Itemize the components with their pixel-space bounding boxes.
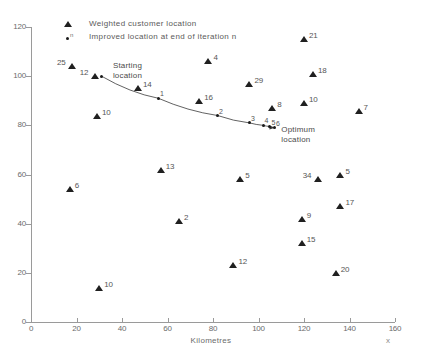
customer-marker xyxy=(157,167,165,173)
customer-marker xyxy=(236,176,244,182)
iteration-number-label: 6 xyxy=(276,120,280,127)
customer-weight-label: 12 xyxy=(238,258,247,266)
y-tick xyxy=(26,224,31,225)
iteration-number-label: 3 xyxy=(251,115,255,122)
customer-weight-label: 16 xyxy=(204,94,213,102)
starting-location: Startinglocation xyxy=(113,61,142,80)
y-tick xyxy=(26,175,31,176)
legend-label-iteration: Improved location at end of iteration n xyxy=(89,33,237,41)
customer-marker xyxy=(91,73,99,79)
customer-weight-label: 18 xyxy=(318,67,327,75)
customer-marker xyxy=(229,262,237,268)
x-tick xyxy=(122,318,123,322)
customer-weight-label: 7 xyxy=(364,104,368,112)
y-tick xyxy=(26,125,31,126)
y-axis-line xyxy=(31,27,32,323)
customer-marker xyxy=(298,216,306,222)
iteration-number-label: 5 xyxy=(271,119,275,126)
customer-weight-label: 12 xyxy=(80,69,89,77)
customer-weight-label: 20 xyxy=(341,266,350,274)
y-tick xyxy=(26,273,31,274)
customer-weight-label: 34 xyxy=(303,172,312,180)
x-tick-label: 100 xyxy=(244,325,274,333)
customer-weight-label: 5 xyxy=(345,168,349,176)
customer-weight-label: 15 xyxy=(307,236,316,244)
x-tick xyxy=(77,318,78,322)
starting-location-line1: Starting xyxy=(113,61,142,71)
x-tick-label: 140 xyxy=(335,325,365,333)
customer-marker xyxy=(300,100,308,106)
iteration-path xyxy=(0,0,422,353)
customer-weight-label: 10 xyxy=(102,109,111,117)
customer-marker xyxy=(268,105,276,111)
x-tick xyxy=(304,318,305,322)
customer-weight-label: 29 xyxy=(254,77,263,85)
x-tick-label: 40 xyxy=(107,325,137,333)
y-tick-label: 100 xyxy=(2,72,26,80)
customer-weight-label: 10 xyxy=(104,281,113,289)
x-tick xyxy=(259,318,260,322)
customer-marker xyxy=(175,218,183,224)
customer-weight-label: 9 xyxy=(307,212,311,220)
customer-marker xyxy=(300,36,308,42)
x-tick xyxy=(31,318,32,322)
y-tick-label: 40 xyxy=(2,220,26,228)
customer-weight-label: 4 xyxy=(213,54,217,62)
triangle-icon xyxy=(64,21,72,27)
iteration-marker xyxy=(100,75,103,78)
customer-weight-label: 25 xyxy=(57,59,66,67)
x-tick-label: 160 xyxy=(380,325,410,333)
y-tick-label: 60 xyxy=(2,171,26,179)
x-axis-variable-label: x xyxy=(386,336,390,345)
starting-location-line2: location xyxy=(113,71,142,81)
customer-marker xyxy=(298,240,306,246)
x-tick-label: 60 xyxy=(153,325,183,333)
y-tick-label: 80 xyxy=(2,121,26,129)
customer-weight-label: 13 xyxy=(166,163,175,171)
x-tick-label: 20 xyxy=(62,325,92,333)
x-axis-line xyxy=(31,322,395,323)
x-tick xyxy=(168,318,169,322)
customer-weight-label: 5 xyxy=(245,172,249,180)
x-tick-label: 80 xyxy=(198,325,228,333)
customer-marker xyxy=(95,285,103,291)
legend-label-customer: Weighted customer location xyxy=(89,20,197,28)
customer-marker xyxy=(93,113,101,119)
customer-marker xyxy=(309,71,317,77)
x-tick-label: 120 xyxy=(289,325,319,333)
customer-marker xyxy=(245,81,253,87)
customer-weight-label: 14 xyxy=(143,81,152,89)
customer-marker xyxy=(134,85,142,91)
customer-marker xyxy=(204,58,212,64)
y-tick xyxy=(26,76,31,77)
x-tick xyxy=(350,318,351,322)
iteration-number-label: 1 xyxy=(160,90,164,97)
customer-weight-label: 8 xyxy=(277,101,281,109)
y-tick-label: 20 xyxy=(2,269,26,277)
y-tick xyxy=(26,322,31,323)
optimum-location-line2: location xyxy=(281,135,315,145)
customer-weight-label: 21 xyxy=(309,32,318,40)
x-tick xyxy=(395,318,396,322)
y-tick-label: 120 xyxy=(2,23,26,31)
y-tick xyxy=(26,27,31,28)
customer-marker xyxy=(314,176,322,182)
x-tick xyxy=(213,318,214,322)
customer-weight-label: 10 xyxy=(309,96,318,104)
customer-marker xyxy=(195,98,203,104)
optimum-location: Optimumlocation xyxy=(281,125,315,144)
customer-marker xyxy=(66,186,74,192)
chart-canvas: Kilometres x Kilometres 2512101441629821… xyxy=(0,0,422,353)
customer-marker xyxy=(68,63,76,69)
customer-weight-label: 17 xyxy=(345,199,354,207)
x-tick-label: 0 xyxy=(16,325,46,333)
iteration-number-label: 4 xyxy=(265,117,269,124)
customer-weight-label: 6 xyxy=(75,182,79,190)
customer-marker xyxy=(355,108,363,114)
customer-weight-label: 2 xyxy=(184,214,188,222)
iteration-number-label: 2 xyxy=(219,108,223,115)
optimum-location-line1: Optimum xyxy=(281,125,315,135)
customer-marker xyxy=(336,172,344,178)
legend-superscript-n: n xyxy=(70,32,73,38)
customer-marker xyxy=(336,203,344,209)
